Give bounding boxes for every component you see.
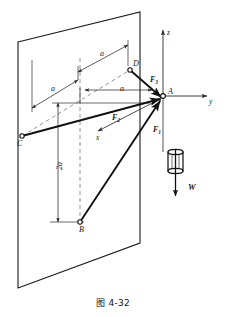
wall-plane bbox=[18, 12, 140, 288]
dim-2a-label: 2a bbox=[56, 162, 64, 170]
force-f1-subscript: 1 bbox=[158, 129, 161, 135]
node-a bbox=[161, 94, 166, 99]
dim-a-upper-label: a bbox=[100, 50, 104, 58]
figure-drawing bbox=[0, 0, 226, 317]
force-f3-label: F3 bbox=[150, 76, 158, 84]
z-axis-label: z bbox=[167, 29, 170, 37]
force-f2-label: F2 bbox=[112, 114, 120, 122]
y-axis-label: y bbox=[209, 98, 212, 106]
weight-label: W bbox=[188, 183, 196, 192]
wall-plane-outline bbox=[18, 12, 140, 288]
dim-a-left-label: a bbox=[51, 85, 55, 93]
dim-a-inner-label: a bbox=[120, 85, 124, 93]
figure-container: z y x A B C D F3 F2 F1 W a a a 2a 图 4-32 bbox=[0, 0, 226, 317]
force-f3-subscript: 3 bbox=[155, 79, 158, 85]
force-f1-label: F1 bbox=[153, 126, 161, 134]
weight-block bbox=[168, 149, 183, 196]
point-c-label: C bbox=[17, 140, 22, 148]
node-c bbox=[20, 134, 24, 138]
point-b-label: B bbox=[79, 226, 84, 234]
x-axis-label: x bbox=[96, 134, 99, 142]
node-b bbox=[78, 220, 82, 224]
point-a-label: A bbox=[168, 88, 173, 96]
point-d-label: D bbox=[133, 60, 139, 68]
node-d bbox=[128, 68, 132, 72]
force-f2-subscript: 2 bbox=[117, 117, 120, 123]
figure-caption: 图 4-32 bbox=[0, 296, 226, 309]
